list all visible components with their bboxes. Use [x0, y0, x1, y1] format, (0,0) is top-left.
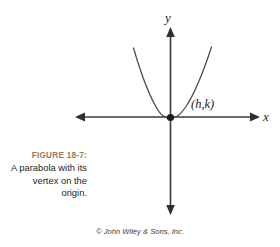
vertex-point-marker — [167, 114, 174, 121]
x-axis-label: x — [263, 110, 269, 123]
x-axis-right-arrowhead — [250, 112, 260, 121]
figure-number-label: FIGURE 18-7: — [8, 150, 87, 162]
figure-container: y x (h,k) FIGURE 18-7: A parabola with i… — [0, 0, 280, 247]
vertex-coordinate-label: (h,k) — [191, 98, 214, 111]
y-axis-label: y — [165, 11, 171, 24]
copyright-credit: © John Wiley & Sons, Inc. — [0, 227, 280, 237]
figure-caption-text: A parabola with its vertex on the origin… — [8, 162, 87, 199]
y-axis-top-arrowhead — [166, 27, 175, 37]
figure-caption: FIGURE 18-7: A parabola with its vertex … — [8, 150, 87, 199]
x-axis-left-arrowhead — [75, 112, 85, 121]
y-axis-bottom-arrowhead — [166, 205, 175, 215]
